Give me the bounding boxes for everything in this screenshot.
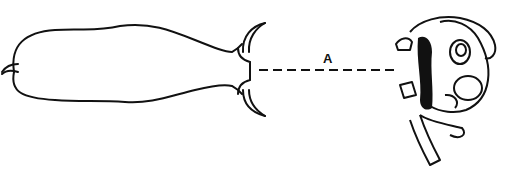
dark-band [418, 37, 433, 110]
diagram-canvas [0, 0, 510, 172]
elongated-body [2, 23, 265, 116]
distance-label-a: A [323, 51, 332, 66]
complex-figure [396, 17, 495, 165]
